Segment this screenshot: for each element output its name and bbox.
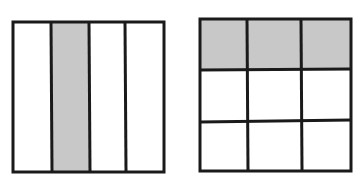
divider-2 <box>89 22 90 172</box>
fraction-grid-three-ninths <box>200 19 351 171</box>
row-divider-2 <box>200 120 351 122</box>
divider-1 <box>51 22 52 172</box>
row-divider-1 <box>200 69 351 70</box>
divider-3 <box>125 22 126 171</box>
fraction-bar-one-fourth <box>13 22 164 172</box>
fraction-diagrams <box>0 0 360 188</box>
column-divider-2 <box>301 19 302 170</box>
shaded-row <box>200 19 351 70</box>
column-divider-1 <box>247 19 248 171</box>
shaded-strip <box>51 22 89 172</box>
